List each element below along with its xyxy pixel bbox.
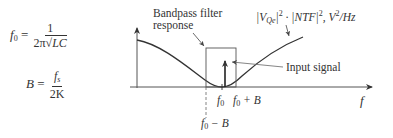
curve-label: |VQe|2 · |NTF|2, V2/Hz xyxy=(256,8,356,27)
tick-label-f0: f0 xyxy=(217,94,224,110)
tick-label-f0-plus-B: f0 + B xyxy=(233,94,261,110)
input-signal-label: Input signal xyxy=(286,61,341,73)
bandpass-filter-box xyxy=(206,48,236,87)
noise-shaping-curve xyxy=(137,37,303,87)
tick-label-f0-minus-B: f0 − B xyxy=(201,117,229,133)
bandpass-filter-label: Bandpass filter response xyxy=(153,7,222,31)
x-axis-label: f xyxy=(360,95,364,107)
filter-label-leader xyxy=(193,33,204,46)
